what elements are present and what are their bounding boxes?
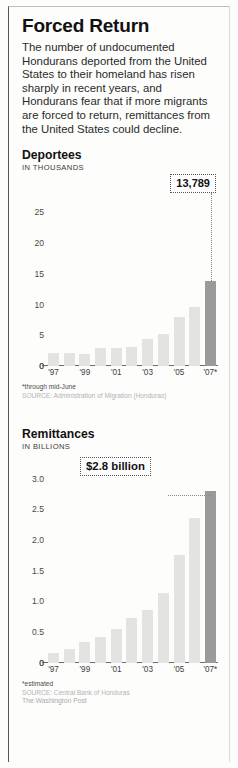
callout-leader-line bbox=[168, 495, 211, 496]
bar bbox=[205, 491, 216, 663]
x-axis-tick-label: '97 bbox=[48, 664, 59, 677]
x-axis-tick-label: '97 bbox=[48, 367, 59, 380]
y-axis-tick-label: 2.0 bbox=[22, 535, 44, 545]
bar bbox=[126, 347, 137, 366]
x-axis-labels: '97.'99.'01.'03.'05.'07* bbox=[48, 367, 216, 380]
x-axis-tick-label: '01 bbox=[111, 367, 122, 380]
y-axis-tick-label: 15 bbox=[22, 269, 44, 279]
bar bbox=[95, 348, 106, 366]
x-axis-tick-label: . bbox=[126, 664, 137, 677]
x-axis-tick-label: '03 bbox=[142, 664, 153, 677]
remittances-chart-units: IN BILLIONS bbox=[22, 442, 228, 451]
bar bbox=[158, 593, 169, 662]
remittances-footnote: *estimated bbox=[22, 680, 228, 688]
bar bbox=[174, 555, 185, 663]
x-axis-tick-label: '99 bbox=[79, 367, 90, 380]
y-axis-tick-label: 1.5 bbox=[22, 566, 44, 576]
x-axis-tick-label: '07* bbox=[205, 664, 216, 677]
y-axis-tick-label: 0.5 bbox=[22, 627, 44, 637]
deportees-bars bbox=[48, 200, 216, 366]
x-axis-tick-label: . bbox=[95, 367, 106, 380]
publication-credit: The Washington Post bbox=[22, 697, 228, 705]
remittances-chart-title: Remittances bbox=[22, 427, 228, 441]
bar bbox=[111, 348, 122, 366]
y-axis-tick-label: 1.0 bbox=[22, 596, 44, 606]
bar bbox=[48, 353, 59, 366]
x-axis-tick-label: . bbox=[64, 367, 75, 380]
intro-paragraph: The number of undocumented Hondurans dep… bbox=[22, 41, 218, 136]
callout-leader-line bbox=[211, 193, 212, 281]
bar bbox=[158, 334, 169, 367]
bar bbox=[79, 642, 90, 662]
x-axis-tick-label: '01 bbox=[111, 664, 122, 677]
remittances-plot: 00.51.01.52.02.53.0'97.'99.'01.'03.'05.'… bbox=[22, 453, 218, 677]
bar bbox=[111, 629, 122, 662]
deportees-callout: 13,789 bbox=[170, 174, 216, 193]
remittances-chart-block: Remittances IN BILLIONS 00.51.01.52.02.5… bbox=[22, 427, 228, 706]
x-axis-tick-label: . bbox=[189, 367, 200, 380]
bar bbox=[142, 339, 153, 366]
bar bbox=[142, 610, 153, 663]
x-axis-tick-label: . bbox=[158, 367, 169, 380]
bar bbox=[126, 618, 137, 662]
x-axis-tick-label: . bbox=[189, 664, 200, 677]
deportees-chart-units: IN THOUSANDS bbox=[22, 163, 228, 172]
bar bbox=[48, 653, 59, 663]
bar bbox=[64, 353, 75, 367]
x-axis-labels: '97.'99.'01.'03.'05.'07* bbox=[48, 664, 216, 677]
y-axis-zero-label: 0 bbox=[22, 361, 44, 371]
deportees-source: SOURCE: Administration of Migration (Hon… bbox=[22, 392, 228, 400]
x-axis-tick-label: '07* bbox=[205, 367, 216, 380]
deportees-plot: 0510152025'97.'99.'01.'03.'05.'07*013,78… bbox=[22, 174, 218, 380]
remittances-callout: $2.8 billion bbox=[80, 457, 151, 476]
x-axis-tick-label: . bbox=[158, 664, 169, 677]
x-axis-tick-label: '05 bbox=[174, 664, 185, 677]
deportees-footnote: *through mid-June bbox=[22, 383, 228, 391]
y-axis-tick-label: 25 bbox=[22, 207, 44, 217]
x-axis-tick-label: . bbox=[95, 664, 106, 677]
y-axis-tick-label: 2.5 bbox=[22, 504, 44, 514]
bar bbox=[205, 281, 216, 366]
y-axis-zero-label: 0 bbox=[22, 658, 44, 668]
y-axis-tick-label: 10 bbox=[22, 300, 44, 310]
bar bbox=[189, 518, 200, 663]
bar bbox=[95, 637, 106, 662]
remittances-source: SOURCE: Central Bank of Honduras bbox=[22, 689, 228, 697]
page-title: Forced Return bbox=[22, 16, 228, 36]
bar bbox=[174, 317, 185, 366]
bar bbox=[79, 354, 90, 366]
y-axis-tick-label: 3.0 bbox=[22, 474, 44, 484]
bar bbox=[189, 307, 200, 366]
x-axis-tick-label: . bbox=[126, 367, 137, 380]
deportees-chart-title: Deportees bbox=[22, 148, 228, 162]
x-axis-tick-label: '03 bbox=[142, 367, 153, 380]
x-axis-tick-label: . bbox=[64, 664, 75, 677]
y-axis-tick-label: 5 bbox=[22, 330, 44, 340]
bar bbox=[64, 649, 75, 662]
x-axis-tick-label: '05 bbox=[174, 367, 185, 380]
y-axis-tick-label: 20 bbox=[22, 238, 44, 248]
remittances-bars bbox=[48, 479, 216, 663]
deportees-chart-block: Deportees IN THOUSANDS 0510152025'97.'99… bbox=[22, 148, 228, 400]
x-axis-tick-label: '99 bbox=[79, 664, 90, 677]
infographic-page: Forced Return The number of undocumented… bbox=[0, 0, 238, 768]
